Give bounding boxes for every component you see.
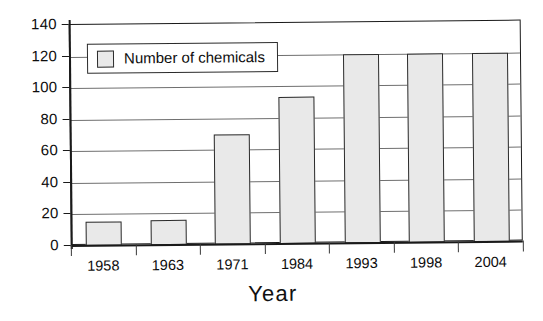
gridline [70, 84, 520, 89]
y-axis-tick-label-wrap: 140 [0, 16, 57, 17]
y-axis-tick [63, 182, 70, 183]
x-axis-tick [394, 242, 395, 253]
chart-legend: Number of chemicals [87, 42, 278, 74]
y-axis-tick [62, 24, 69, 25]
x-axis-tick-group [0, 0, 541, 3]
x-axis-tick-label: 1958 [68, 257, 138, 274]
y-axis-tick [62, 56, 69, 57]
y-axis-tick-label-wrap: 0 [1, 237, 59, 238]
y-axis-tick-label: 100 [15, 79, 57, 94]
y-axis-tick-label: 120 [15, 48, 57, 63]
y-axis-tick-label-wrap: 120 [0, 48, 57, 49]
x-axis-tick [200, 244, 201, 255]
x-axis-label-group: 1958196319711984199319982004 [0, 0, 541, 3]
y-axis-tick [63, 213, 70, 214]
y-axis-tick [62, 87, 69, 88]
x-axis-tick [264, 243, 265, 254]
y-axis-tick [63, 150, 70, 151]
bar [472, 52, 510, 242]
x-axis-title: Year [1, 278, 543, 309]
y-axis-tick [64, 245, 71, 246]
x-axis-tick-label: 1963 [133, 257, 203, 274]
legend-label: Number of chemicals [124, 49, 265, 66]
bar-group [70, 21, 520, 25]
legend-swatch-icon [97, 50, 114, 67]
y-axis-tick-label-wrap: 20 [0, 205, 58, 206]
x-axis-tick [458, 241, 459, 252]
y-axis-tick-label: 60 [16, 142, 58, 157]
x-axis-tick [71, 245, 72, 256]
x-axis-tick-label: 1984 [262, 255, 332, 272]
y-axis-tick-label-wrap: 60 [0, 142, 58, 143]
bar [343, 54, 381, 244]
bar [86, 222, 122, 246]
bar [214, 134, 251, 245]
bar [407, 53, 445, 243]
y-axis-tick-label: 140 [15, 16, 57, 31]
x-axis-tick-label: 2004 [456, 254, 526, 271]
bar [278, 97, 315, 244]
x-axis-tick [135, 244, 136, 255]
x-axis-tick-label: 1998 [391, 254, 461, 271]
y-axis-tick-label: 0 [17, 237, 59, 252]
x-axis-tick-label: 1993 [326, 255, 396, 272]
bar [150, 220, 186, 246]
y-axis-tick-label-wrap: 80 [0, 111, 58, 112]
gridline-group [70, 21, 520, 25]
bar-chart-figure: 020406080100120140 195819631971198419931… [0, 0, 543, 321]
y-axis-tick-label: 80 [16, 111, 58, 126]
y-axis-tick-label-wrap: 100 [0, 79, 57, 80]
x-axis-tick [329, 242, 330, 253]
y-axis-tick-group: 020406080100120140 [0, 0, 541, 3]
x-axis-tick [523, 241, 524, 252]
y-axis-tick-label-wrap: 40 [0, 174, 58, 175]
y-axis-tick [63, 119, 70, 120]
y-axis-tick-label: 40 [16, 174, 58, 189]
y-axis-tick-label: 20 [16, 205, 58, 220]
x-axis-tick-label: 1971 [197, 256, 267, 273]
